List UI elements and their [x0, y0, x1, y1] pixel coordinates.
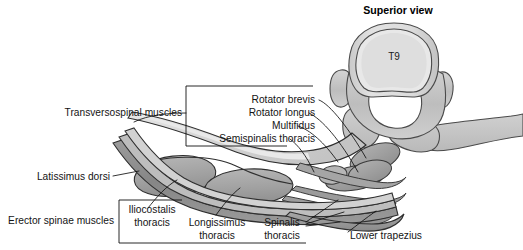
- label-semispinalis-thoracis: Semispinalis thoracis: [219, 133, 315, 144]
- label-latissimus-dorsi: Latissimus dorsi: [37, 171, 110, 182]
- label-spinalis-thoracis: Spinalis: [264, 217, 300, 228]
- label-multifidus: Multifidus: [272, 120, 315, 131]
- label-transversospinal-muscles: Transversospinal muscles: [65, 107, 182, 118]
- label-rotator-longus: Rotator longus: [249, 107, 315, 118]
- label-longissimus-thoracis: Longissimus: [189, 217, 246, 228]
- label-lower-trapezius: Lower trapezius: [350, 230, 422, 241]
- anatomy-figure: T9: [0, 0, 523, 250]
- label-spinalis-thoracis-line2: thoracis: [264, 230, 300, 241]
- vertebra-label-t9: T9: [388, 51, 400, 62]
- figure-title: Superior view: [363, 4, 433, 16]
- label-rotator-brevis: Rotator brevis: [252, 94, 315, 105]
- label-erector-spinae-muscles: Erector spinae muscles: [8, 215, 114, 226]
- label-longissimus-thoracis-line2: thoracis: [199, 230, 235, 241]
- label-iliocostalis-thoracis: Iliocostalis: [129, 204, 176, 215]
- anatomy-illustration: T9: [0, 0, 523, 250]
- vertebra-t9: T9: [330, 23, 523, 152]
- label-iliocostalis-thoracis-line2: thoracis: [134, 217, 170, 228]
